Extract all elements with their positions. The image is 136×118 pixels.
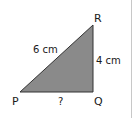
side-pq-label: ?: [58, 97, 63, 107]
side-qr-label: 4 cm: [96, 56, 121, 66]
triangle-pqr: [20, 25, 93, 92]
vertex-r-label: R: [94, 13, 102, 24]
right-border: [131, 0, 132, 118]
vertex-p-label: P: [12, 96, 19, 107]
side-pr-label: 6 cm: [33, 45, 58, 55]
vertex-q-label: Q: [94, 96, 103, 107]
